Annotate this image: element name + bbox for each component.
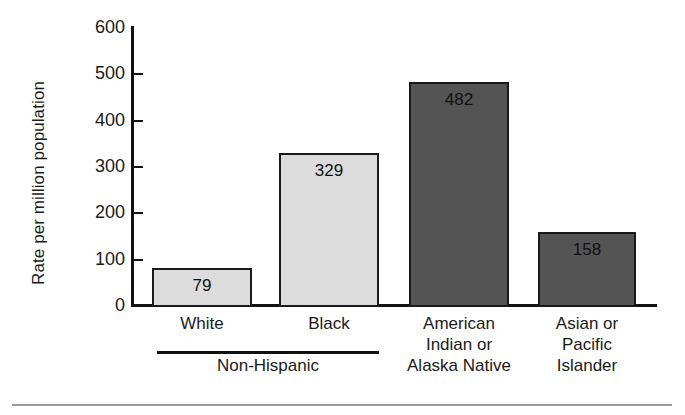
y-tick-mark-200 — [134, 212, 143, 214]
figure-bottom-rule — [12, 404, 672, 406]
bar-value-label-0: 79 — [154, 276, 250, 296]
bar-chart-figure: Rate per million population 600500400300… — [0, 0, 685, 415]
group-bracket-label: Non-Hispanic — [157, 356, 379, 376]
bar-3: 158 — [538, 232, 636, 307]
x-category-label-3: Asian orPacificIslander — [510, 313, 664, 376]
y-tick-mark-500 — [134, 73, 143, 75]
y-tick-mark-100 — [134, 259, 143, 261]
bar-0: 79 — [152, 268, 252, 307]
bar-2: 482 — [409, 82, 509, 307]
bar-value-label-1: 329 — [281, 161, 377, 181]
group-bracket-rule — [157, 351, 379, 354]
y-tick-mark-400 — [134, 120, 143, 122]
x-category-label-line: Islander — [510, 355, 664, 376]
x-category-label-line: Pacific — [510, 334, 664, 355]
bar-value-label-3: 158 — [540, 240, 634, 260]
bar-value-label-2: 482 — [411, 90, 507, 110]
x-category-label-line: Asian or — [510, 313, 664, 334]
y-tick-mark-300 — [134, 166, 143, 168]
bar-1: 329 — [279, 153, 379, 307]
